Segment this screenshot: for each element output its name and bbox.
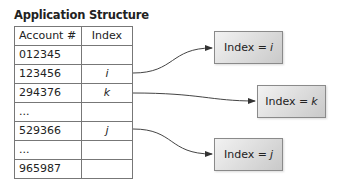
index-box-j: Index =j	[214, 138, 283, 171]
box-var: k	[311, 95, 317, 108]
arrow-i	[133, 48, 212, 73]
box-var: j	[270, 148, 273, 161]
arrow-k	[133, 93, 255, 101]
arrow-j	[133, 129, 212, 154]
box-label: Index =	[224, 41, 267, 54]
index-box-k: Index =k	[257, 85, 326, 118]
box-var: i	[270, 41, 273, 54]
index-box-i: Index =i	[214, 31, 283, 64]
box-label: Index =	[265, 95, 308, 108]
box-label: Index =	[224, 148, 267, 161]
